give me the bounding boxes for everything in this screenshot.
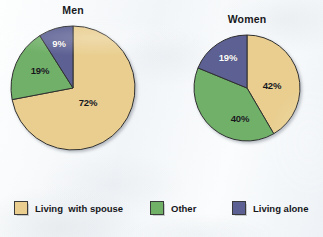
legend-swatch-other <box>150 201 164 215</box>
legend-item-living-alone: Living alone <box>232 196 308 220</box>
legend-label-other: Other <box>171 203 196 214</box>
pie-slice-label-women-other: 40% <box>231 113 250 124</box>
pie-svg-women <box>187 28 307 148</box>
legend-item-living-with-spouse: Living with spouse <box>14 196 123 220</box>
pie-panel-women: Women 42% 40% 19% <box>0 0 323 196</box>
pie-slice-label-women-living-alone: 19% <box>219 52 238 63</box>
pie-title-women: Women <box>177 13 317 25</box>
chart-legend: Living with spouse Other Living alone <box>0 196 323 220</box>
legend-swatch-living-with-spouse <box>14 201 28 215</box>
pie-chart-figure: Men 72% 19% 9% Women 42% 40% 19% Living … <box>0 0 323 237</box>
legend-swatch-living-alone <box>232 201 246 215</box>
legend-label-living-alone: Living alone <box>253 203 308 214</box>
legend-label-living-with-spouse: Living with spouse <box>35 203 123 214</box>
pie-slice-label-women-living-with-spouse: 42% <box>263 80 282 91</box>
legend-item-other: Other <box>150 196 196 220</box>
